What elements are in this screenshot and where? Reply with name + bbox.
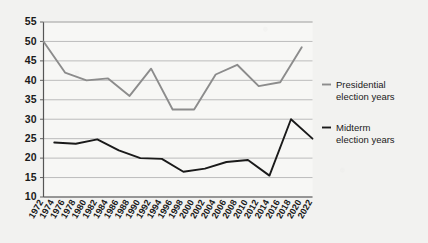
y-tick-label: 30	[25, 113, 37, 125]
y-tick-label: 50	[25, 35, 37, 47]
legend-label-line2: election years	[336, 134, 395, 145]
y-tick-label: 55	[25, 15, 37, 27]
legend-label: Presidential	[336, 79, 386, 90]
legend-label-line2: election years	[336, 91, 395, 102]
line-chart: 5550454035302520151019721974197619781980…	[0, 0, 428, 243]
y-tick-label: 20	[25, 151, 37, 163]
y-tick-label: 25	[25, 132, 37, 144]
y-tick-label: 35	[25, 93, 37, 105]
y-axis-labels: 55504540353025201510	[25, 15, 37, 202]
chart-container: 5550454035302520151019721974197619781980…	[0, 0, 428, 243]
y-tick-label: 15	[25, 171, 37, 183]
x-axis-labels: 1972197419761978198019821984198619881990…	[27, 198, 315, 220]
legend: Presidentialelection yearsMidtermelectio…	[322, 79, 395, 145]
y-tick-label: 40	[25, 74, 37, 86]
legend-label: Midterm	[336, 122, 370, 133]
y-tick-label: 45	[25, 54, 37, 66]
